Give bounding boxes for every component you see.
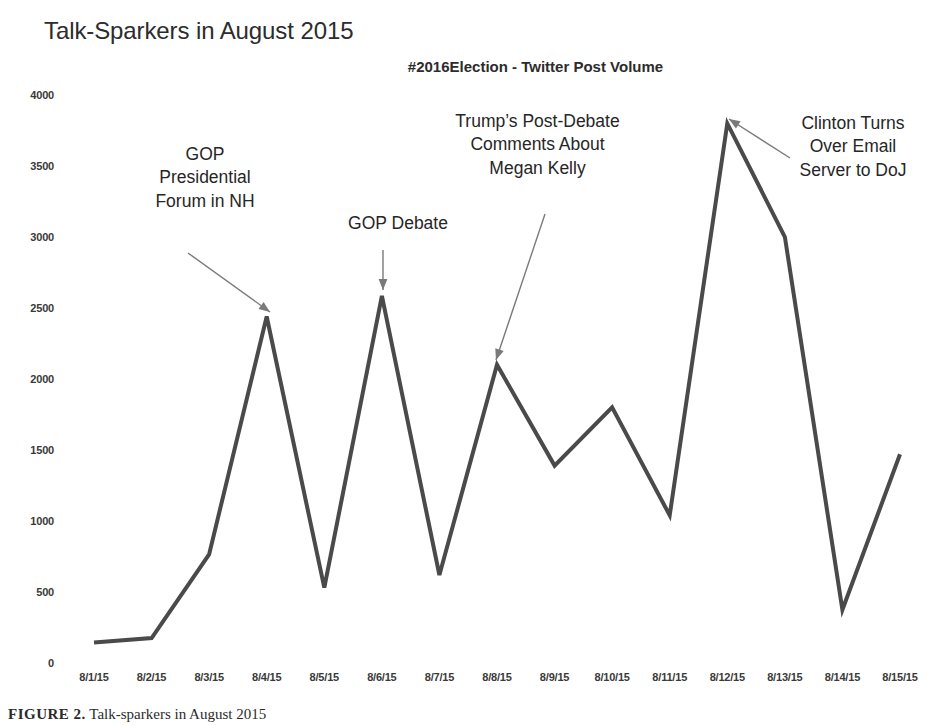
x-tick-8-12-15: 8/12/15	[710, 671, 745, 683]
y-tick-2000: 2000	[8, 373, 54, 385]
x-tick-8-11-15: 8/11/15	[652, 671, 687, 683]
y-tick-0: 0	[8, 657, 54, 669]
figure-caption: FIGURE 2. Talk-sparkers in August 2015	[8, 706, 266, 723]
x-tick-8-14-15: 8/14/15	[825, 671, 860, 683]
annotation-clinton-email-server: Clinton TurnsOver EmailServer to DoJ	[768, 112, 938, 182]
x-tick-8-10-15: 8/10/15	[594, 671, 629, 683]
annotation-trump-megan-kelly-line-1: Trump’s Post-Debate	[430, 110, 645, 133]
x-tick-8-8-15: 8/8/15	[482, 671, 511, 683]
y-tick-1000: 1000	[8, 515, 54, 527]
x-tick-8-5-15: 8/5/15	[310, 671, 339, 683]
annotation-clinton-email-server-line-1: Clinton Turns	[768, 112, 938, 135]
annotation-trump-megan-kelly-line-2: Comments About	[430, 133, 645, 156]
leader-line-gop-forum-nh	[188, 253, 270, 312]
y-tick-3000: 3000	[8, 231, 54, 243]
x-tick-8-6-15: 8/6/15	[367, 671, 396, 683]
y-tick-4000: 4000	[8, 89, 54, 101]
annotation-gop-debate-line-1: GOP Debate	[318, 212, 478, 235]
figure-number: FIGURE 2.	[8, 706, 86, 722]
x-tick-8-9-15: 8/9/15	[540, 671, 569, 683]
annotation-gop-forum-nh-line-2: Presidential	[110, 166, 300, 189]
y-tick-1500: 1500	[8, 444, 54, 456]
x-tick-8-1-15: 8/1/15	[79, 671, 108, 683]
y-tick-2500: 2500	[8, 302, 54, 314]
annotation-trump-megan-kelly-line-3: Megan Kelly	[430, 157, 645, 180]
x-tick-8-13-15: 8/13/15	[767, 671, 802, 683]
annotation-gop-forum-nh-line-1: GOP	[110, 143, 300, 166]
x-tick-8-4-15: 8/4/15	[252, 671, 281, 683]
annotation-clinton-email-server-line-3: Server to DoJ	[768, 159, 938, 182]
x-tick-8-3-15: 8/3/15	[194, 671, 223, 683]
annotation-gop-forum-nh-line-3: Forum in NH	[110, 190, 300, 213]
x-tick-8-7-15: 8/7/15	[425, 671, 454, 683]
line-chart-plot	[0, 0, 946, 725]
leader-arrowhead-gop-debate	[379, 279, 388, 290]
x-tick-8-2-15: 8/2/15	[137, 671, 166, 683]
figure-page: Talk-Sparkers in August 2015 #2016Electi…	[0, 0, 946, 725]
leader-arrowhead-trump-megan-kelly	[495, 348, 503, 360]
figure-caption-text: Talk-sparkers in August 2015	[89, 706, 266, 722]
annotation-clinton-email-server-line-2: Over Email	[768, 135, 938, 158]
annotation-gop-debate: GOP Debate	[318, 212, 478, 235]
annotation-gop-forum-nh: GOPPresidentialForum in NH	[110, 143, 300, 213]
leader-arrowhead-gop-forum-nh	[259, 302, 271, 312]
y-tick-3500: 3500	[8, 160, 54, 172]
leader-line-trump-megan-kelly	[496, 214, 545, 360]
annotation-trump-megan-kelly: Trump’s Post-DebateComments AboutMegan K…	[430, 110, 645, 180]
x-tick-8-15-15: 8/15/15	[882, 671, 917, 683]
y-tick-500: 500	[8, 586, 54, 598]
